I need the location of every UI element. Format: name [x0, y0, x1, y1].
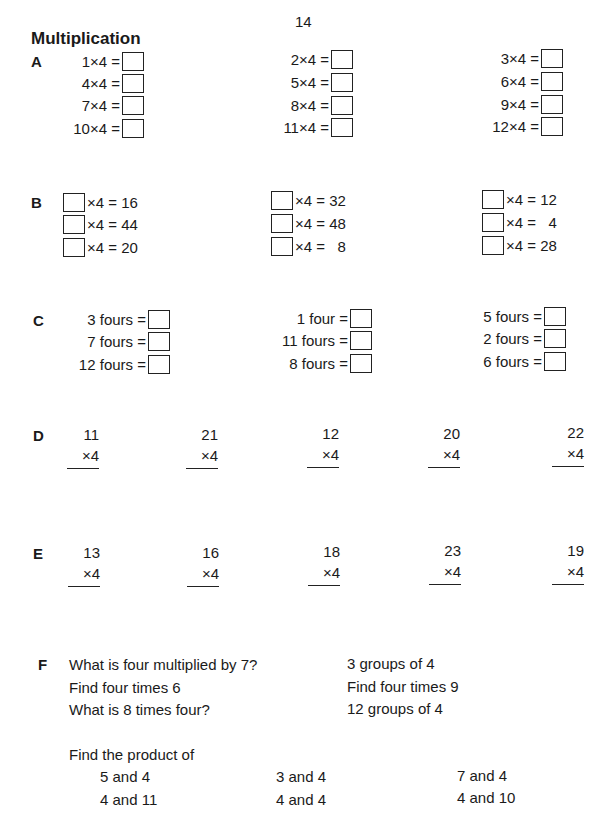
equation-text: ×4 = 32 — [295, 192, 346, 209]
equation-text: 5×4 = — [291, 74, 329, 91]
word-question: What is four multiplied by 7? — [69, 656, 257, 673]
answer-box[interactable] — [63, 215, 85, 234]
answer-line[interactable] — [428, 467, 460, 468]
answer-box[interactable] — [148, 310, 170, 329]
answer-box[interactable] — [271, 237, 293, 256]
answer-box[interactable] — [122, 74, 144, 93]
page-title: Multiplication — [31, 29, 141, 49]
answer-line[interactable] — [186, 468, 218, 469]
problem-multiplier: ×4 — [186, 446, 218, 466]
problem-multiplier: ×4 — [187, 564, 219, 584]
answer-line[interactable] — [308, 585, 340, 586]
answer-box[interactable] — [482, 213, 504, 232]
section-a-item: 9×4 = — [460, 94, 563, 115]
product-item: 7 and 4 — [457, 767, 507, 784]
section-a-item: 7×4 = — [40, 95, 144, 116]
equation-text: 10×4 = — [73, 120, 120, 137]
section-d-label: D — [33, 427, 44, 444]
answer-box[interactable] — [331, 118, 353, 137]
section-c-item: 1 four = — [240, 308, 372, 329]
equation-text: 2×4 = — [291, 51, 329, 68]
answer-box[interactable] — [350, 309, 372, 328]
answer-box[interactable] — [541, 95, 563, 114]
problem-multiplier: ×4 — [428, 445, 460, 465]
problem-top: 18 — [308, 541, 340, 563]
answer-box[interactable] — [541, 49, 563, 68]
problem-top: 19 — [552, 540, 584, 562]
product-item: 3 and 4 — [276, 768, 326, 785]
equation-text: 11 fours = — [282, 332, 348, 349]
problem-multiplier: ×4 — [308, 563, 340, 583]
section-c-item: 12 fours = — [40, 354, 170, 375]
equation-text: ×4 = 20 — [87, 239, 138, 256]
section-b-item: ×4 = 32 — [271, 190, 346, 211]
equation-text: ×4 = 28 — [506, 237, 557, 254]
answer-box[interactable] — [482, 236, 504, 255]
vertical-problem: 18×4 — [308, 541, 340, 586]
problem-top: 12 — [307, 423, 339, 445]
page-number: 14 — [295, 13, 312, 30]
answer-box[interactable] — [148, 332, 170, 351]
vertical-problem: 19×4 — [552, 540, 584, 585]
section-c-item: 3 fours = — [40, 309, 170, 330]
vertical-problem: 12×4 — [307, 423, 339, 468]
answer-box[interactable] — [544, 329, 566, 348]
answer-box[interactable] — [544, 307, 566, 326]
answer-box[interactable] — [541, 117, 563, 136]
answer-line[interactable] — [187, 586, 219, 587]
answer-box[interactable] — [331, 73, 353, 92]
answer-box[interactable] — [122, 52, 144, 71]
problem-multiplier: ×4 — [68, 564, 100, 584]
section-a-item: 5×4 = — [250, 72, 353, 93]
section-b-item: ×4 = 16 — [63, 192, 138, 213]
section-c-item: 11 fours = — [240, 330, 372, 351]
answer-box[interactable] — [271, 214, 293, 233]
answer-line[interactable] — [429, 584, 461, 585]
answer-box[interactable] — [350, 354, 372, 373]
section-a-item: 8×4 = — [250, 95, 353, 116]
equation-text: 1 four = — [297, 310, 348, 327]
answer-box[interactable] — [122, 96, 144, 115]
problem-multiplier: ×4 — [552, 562, 584, 582]
section-b-item: ×4 = 48 — [271, 213, 346, 234]
answer-box[interactable] — [271, 191, 293, 210]
equation-text: 1×4 = — [82, 53, 120, 70]
vertical-problem: 13×4 — [68, 542, 100, 587]
problem-multiplier: ×4 — [67, 446, 99, 466]
answer-box[interactable] — [482, 190, 504, 209]
answer-line[interactable] — [68, 586, 100, 587]
vertical-problem: 20×4 — [428, 423, 460, 468]
product-item: 4 and 11 — [100, 791, 157, 808]
answer-box[interactable] — [148, 355, 170, 374]
answer-line[interactable] — [552, 584, 584, 585]
equation-text: 3 fours = — [87, 311, 146, 328]
answer-box[interactable] — [63, 238, 85, 257]
equation-text: 12×4 = — [492, 118, 539, 135]
word-question: Find four times 9 — [347, 678, 459, 695]
equation-text: 7 fours = — [87, 333, 146, 350]
answer-line[interactable] — [552, 466, 584, 467]
answer-box[interactable] — [122, 119, 144, 138]
answer-box[interactable] — [544, 352, 566, 371]
section-c-item: 2 fours = — [440, 328, 566, 349]
problem-multiplier: ×4 — [307, 445, 339, 465]
equation-text: 9×4 = — [501, 96, 539, 113]
answer-box[interactable] — [350, 331, 372, 350]
equation-text: 4×4 = — [82, 75, 120, 92]
answer-box[interactable] — [63, 193, 85, 212]
answer-line[interactable] — [67, 468, 99, 469]
equation-text: 2 fours = — [483, 330, 542, 347]
equation-text: 12 fours = — [79, 356, 146, 373]
word-question: What is 8 times four? — [69, 701, 210, 718]
answer-line[interactable] — [307, 467, 339, 468]
equation-text: ×4 = 12 — [506, 191, 557, 208]
section-c-item: 6 fours = — [440, 351, 566, 372]
answer-box[interactable] — [331, 96, 353, 115]
section-b-item: ×4 = 4 — [482, 212, 557, 233]
problem-top: 13 — [68, 542, 100, 564]
equation-text: 11×4 = — [283, 119, 329, 136]
answer-box[interactable] — [541, 72, 563, 91]
equation-text: ×4 = 16 — [87, 194, 138, 211]
vertical-problem: 23×4 — [429, 540, 461, 585]
answer-box[interactable] — [331, 50, 353, 69]
